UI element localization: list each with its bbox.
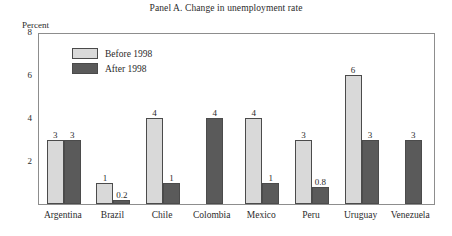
bar-mexico-before-1998 [245, 118, 262, 204]
bar-chile-before-1998 [146, 118, 163, 204]
legend-swatch-icon [72, 63, 98, 74]
bar-value-label: 1 [155, 173, 188, 183]
bar-value-label: 3 [56, 130, 89, 140]
bar-value-label: 3 [354, 130, 387, 140]
y-axis-tick-label: 2 [2, 156, 32, 166]
legend-swatch-icon [72, 48, 98, 59]
bar-value-label: 1 [88, 173, 121, 183]
bar-argentina-after-1998 [64, 140, 81, 205]
bar-value-label: 4 [198, 108, 231, 118]
bar-colombia-after-1998 [206, 118, 223, 204]
bar-value-label: 4 [237, 108, 270, 118]
legend-item-label: After 1998 [105, 64, 146, 74]
bar-value-label: 0.2 [105, 190, 138, 200]
page-title: Panel A. Change in unemployment rate [0, 3, 452, 13]
bar-mexico-after-1998 [262, 183, 279, 205]
bar-peru-after-1998 [312, 187, 329, 204]
bar-value-label: 3 [397, 130, 430, 140]
bar-value-label: 4 [138, 108, 171, 118]
y-axis-tick-label: 6 [2, 70, 32, 80]
bar-peru-before-1998 [295, 140, 312, 205]
bar-chile-after-1998 [163, 183, 180, 205]
bar-value-label: 0.8 [304, 177, 337, 187]
chart-legend: Before 1998After 1998 [72, 46, 152, 76]
bar-value-label: 3 [287, 130, 320, 140]
bar-value-label: 1 [254, 173, 287, 183]
x-axis-label-venezuela: Venezuela [375, 210, 445, 220]
y-axis-tick-label: 4 [2, 113, 32, 123]
bar-brazil-after-1998 [113, 200, 130, 204]
bar-venezuela-after-1998 [405, 140, 422, 205]
legend-item-label: Before 1998 [105, 49, 152, 59]
y-axis-tick-label: 8 [2, 27, 32, 37]
legend-item-before-1998: Before 1998 [72, 46, 152, 61]
bar-value-label: 6 [337, 65, 370, 75]
bar-uruguay-after-1998 [362, 140, 379, 205]
bar-argentina-before-1998 [47, 140, 64, 205]
bar-uruguay-before-1998 [345, 75, 362, 204]
legend-item-after-1998: After 1998 [72, 61, 152, 76]
